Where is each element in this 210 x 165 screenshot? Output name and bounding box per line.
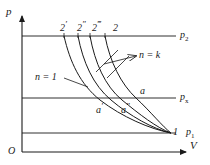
pv-diagram-figure: p V O p2 px p1 2′ 2″ 2‴ 2 1 a a′ a″ n = … (0, 0, 210, 165)
annotation-n-equals-k: n = k (139, 50, 160, 60)
pressure-label-p1-sub: 1 (191, 132, 195, 140)
curve-label-2: 2 (113, 20, 118, 33)
n1-leader-line (64, 78, 88, 87)
state-point-1-base: 1 (173, 126, 178, 137)
state-point-a-prime-mark: ′ (101, 101, 103, 111)
curve-label-2-triple-prime-mark: ‴ (97, 19, 101, 29)
state-point-a-prime: a′ (96, 102, 103, 115)
curve-label-2-triple-prime: 2‴ (92, 20, 101, 33)
pressure-label-px-sub: x (185, 97, 189, 105)
diagram-canvas (0, 0, 210, 165)
polytropic-curve-2 (105, 36, 171, 133)
state-point-a-double-prime: a″ (121, 102, 130, 115)
state-point-1: 1 (173, 127, 178, 137)
curve-label-2-prime-mark: ′ (65, 19, 67, 29)
origin-label: O (8, 146, 15, 156)
curve-label-2-base: 2 (113, 22, 118, 33)
pressure-label-px: px (180, 92, 189, 105)
pressure-label-p2: p2 (180, 30, 189, 43)
pressure-label-p2-sub: 2 (185, 35, 189, 43)
pressure-label-p1: p1 (186, 127, 195, 140)
curve-label-2-double-prime: 2″ (77, 20, 86, 33)
pressure-axis-label: p (6, 6, 12, 17)
state-point-a-double-prime-mark: ″ (126, 101, 130, 111)
curve-label-2-double-prime-mark: ″ (82, 19, 86, 29)
state-point-a-base: a (140, 85, 145, 96)
annotation-n-equals-1: n = 1 (35, 72, 57, 82)
curve-label-2-prime: 2′ (60, 20, 67, 33)
nk-leader-arrow (104, 56, 136, 64)
volume-axis-label: V (190, 140, 197, 151)
state-point-a: a (140, 86, 145, 96)
